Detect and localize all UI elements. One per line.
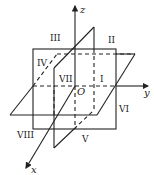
octant-8: VIII xyxy=(16,130,35,140)
y-label: y xyxy=(143,87,150,98)
x-label: x xyxy=(31,164,37,175)
origin-label: O xyxy=(77,86,85,97)
octant-7: VII xyxy=(58,74,73,84)
octant-5: V xyxy=(81,134,89,144)
octant-2: II xyxy=(108,35,116,45)
octant-diagram: z y x O I II III IV V VI VII VIII xyxy=(0,0,154,175)
octant-4: IV xyxy=(37,58,48,68)
octant-1: I xyxy=(100,74,104,84)
diagram-canvas: z y x O I II III IV V VI VII VIII xyxy=(0,0,154,175)
z-label: z xyxy=(79,4,86,15)
octant-6: VI xyxy=(118,104,129,114)
octant-3: III xyxy=(50,33,61,43)
